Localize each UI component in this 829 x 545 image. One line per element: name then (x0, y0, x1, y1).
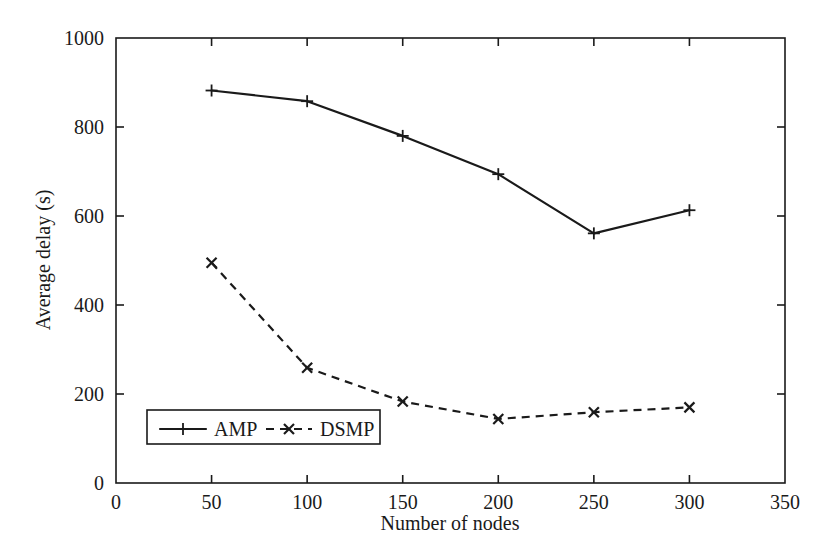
chart-figure: 050100150200250300350 02004006008001000 … (0, 0, 829, 545)
x-tick-label: 350 (770, 491, 800, 513)
line-chart: 050100150200250300350 02004006008001000 … (0, 0, 829, 545)
x-tick-label: 250 (579, 491, 609, 513)
x-tick-label: 50 (202, 491, 222, 513)
x-tick-label: 300 (674, 491, 704, 513)
chart-legend: AMPDSMP (147, 410, 380, 444)
x-axis-tick-labels: 050100150200250300350 (111, 491, 800, 513)
x-tick-label: 200 (483, 491, 513, 513)
legend-label: DSMP (320, 418, 374, 440)
y-tick-label: 0 (94, 472, 104, 494)
x-tick-label: 100 (292, 491, 322, 513)
y-tick-label: 600 (74, 205, 104, 227)
y-tick-label: 200 (74, 383, 104, 405)
x-tick-label: 150 (388, 491, 418, 513)
x-axis-title: Number of nodes (381, 512, 520, 534)
y-tick-label: 800 (74, 116, 104, 138)
y-tick-label: 400 (74, 294, 104, 316)
x-tick-label: 0 (111, 491, 121, 513)
y-axis-tick-labels: 02004006008001000 (64, 27, 104, 494)
y-tick-label: 1000 (64, 27, 104, 49)
legend-label: AMP (214, 418, 257, 440)
y-axis-title: Average delay (s) (32, 190, 55, 331)
